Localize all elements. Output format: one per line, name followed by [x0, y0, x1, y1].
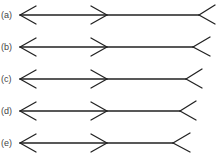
- left-arrowhead-lower: [20, 47, 36, 56]
- row-label-a: (a): [1, 10, 12, 20]
- right-fin-upper: [199, 5, 215, 15]
- arrow-row-c: [20, 69, 202, 88]
- row-label-c: (c): [1, 74, 12, 84]
- arrow-row-b: [20, 37, 210, 56]
- right-fin-upper: [173, 133, 190, 143]
- arrow-lines-drawing: [0, 0, 217, 159]
- mid-arrowhead-lower: [91, 79, 107, 88]
- row-label-b: (b): [1, 42, 12, 52]
- arrow-row-d: [20, 101, 196, 120]
- left-arrowhead-lower: [20, 143, 36, 152]
- mid-arrowhead-upper: [91, 38, 107, 47]
- right-fin-lower: [186, 79, 202, 88]
- left-arrowhead-lower: [20, 15, 36, 24]
- left-arrowhead-upper: [20, 38, 36, 47]
- right-fin-lower: [199, 15, 215, 24]
- row-label-d: (d): [1, 106, 12, 116]
- right-fin-lower: [173, 143, 190, 152]
- mid-arrowhead-upper: [91, 70, 107, 79]
- arrow-row-a: [20, 5, 215, 24]
- mid-arrowhead-upper: [91, 6, 107, 15]
- row-label-e: (e): [1, 138, 12, 148]
- mid-arrowhead-upper: [91, 134, 107, 143]
- left-arrowhead-upper: [20, 102, 36, 111]
- right-fin-upper: [186, 69, 202, 79]
- left-arrowhead-upper: [20, 134, 36, 143]
- muller-lyer-figure: (a) (b) (c) (d) (e): [0, 0, 217, 159]
- mid-arrowhead-lower: [91, 111, 107, 120]
- mid-arrowhead-lower: [91, 143, 107, 152]
- mid-arrowhead-lower: [91, 15, 107, 24]
- mid-arrowhead-lower: [91, 47, 107, 56]
- right-fin-upper: [193, 37, 210, 47]
- left-arrowhead-lower: [20, 79, 36, 88]
- right-fin-lower: [180, 111, 196, 120]
- left-arrowhead-lower: [20, 111, 36, 120]
- left-arrowhead-upper: [20, 6, 36, 15]
- left-arrowhead-upper: [20, 70, 36, 79]
- right-fin-upper: [180, 101, 196, 111]
- arrow-row-e: [20, 133, 190, 152]
- mid-arrowhead-upper: [91, 102, 107, 111]
- right-fin-lower: [193, 47, 210, 56]
